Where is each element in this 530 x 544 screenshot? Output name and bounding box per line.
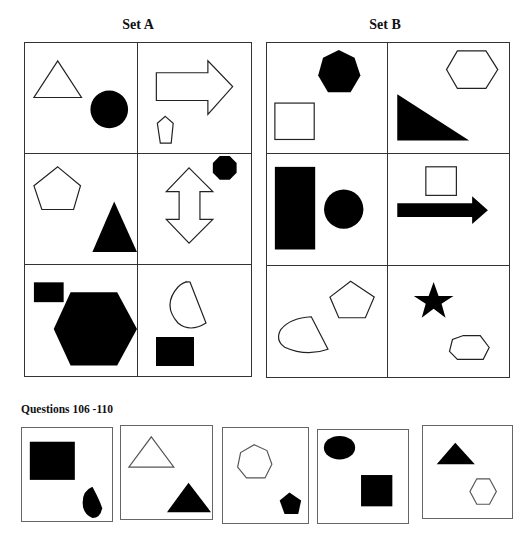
outline-square (275, 103, 314, 139)
question-109-box[interactable] (317, 429, 409, 524)
solid-rectangle (275, 167, 315, 250)
questions-label: Questions 106 -110 (21, 403, 113, 415)
solid-star (414, 282, 454, 318)
solid-octagon (213, 156, 237, 180)
solid-right-arrow (397, 197, 488, 225)
outline-triangle (34, 61, 82, 98)
question-108-box[interactable] (222, 427, 309, 524)
outline-up-down-arrow (166, 168, 213, 243)
solid-rectangle (156, 337, 194, 366)
solid-triangle (437, 443, 475, 465)
set-a-cell-6 (138, 265, 251, 376)
solid-hexagon (54, 292, 137, 365)
solid-rectangle (34, 282, 64, 302)
solid-circle (90, 91, 128, 129)
solid-square (30, 442, 75, 480)
outline-heptagon (449, 335, 489, 359)
set-b-cell-3 (267, 154, 388, 265)
solid-triangle (92, 202, 137, 253)
solid-square (361, 475, 392, 506)
outline-triangle (129, 437, 174, 467)
set-a-title: Set A (78, 17, 198, 33)
question-106-box[interactable] (21, 427, 113, 522)
question-110-box[interactable] (422, 425, 513, 519)
set-a-cell-3 (25, 154, 138, 265)
solid-semicircle (83, 487, 103, 518)
solid-triangle (167, 483, 211, 512)
outline-pentagon (330, 281, 374, 317)
set-b-cell-4 (388, 154, 509, 265)
outline-pentagon (34, 167, 81, 210)
outline-pentagon (157, 116, 173, 143)
solid-ellipse (324, 436, 355, 459)
solid-pentagon (280, 493, 301, 514)
outline-heptagon (238, 445, 272, 478)
set-b-cell-2 (388, 43, 509, 154)
outline-semicircle (279, 316, 328, 352)
outline-hexagon (447, 51, 498, 88)
set-b-cell-5 (267, 266, 388, 377)
set-b-grid (266, 42, 510, 378)
set-a-cell-4 (138, 154, 251, 265)
solid-right-triangle (397, 94, 469, 140)
outline-semicircle (170, 282, 206, 328)
set-a-cell-5 (25, 265, 138, 376)
set-b-cell-1 (267, 43, 388, 154)
solid-heptagon (318, 50, 360, 92)
set-a-cell-1 (25, 43, 138, 154)
set-a-cell-2 (138, 43, 251, 154)
set-b-cell-6 (388, 266, 509, 377)
outline-right-arrow (156, 61, 232, 115)
outline-square (426, 167, 457, 196)
outline-hexagon (470, 479, 496, 504)
set-b-title: Set B (325, 17, 445, 33)
question-107-box[interactable] (120, 425, 213, 520)
set-a-grid (24, 42, 252, 377)
solid-circle (324, 190, 363, 229)
